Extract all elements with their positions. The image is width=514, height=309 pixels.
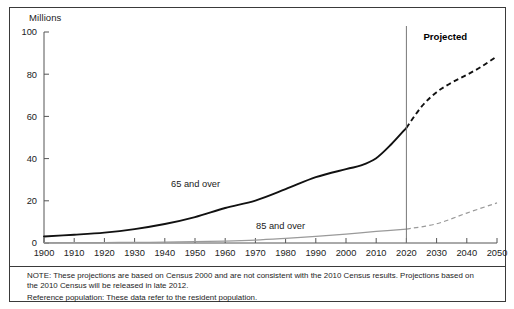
y-tick-label: 0 — [32, 238, 37, 248]
x-tick-label: 1900 — [34, 248, 55, 258]
y-tick-label: 80 — [27, 70, 37, 80]
x-tick-label: 1940 — [154, 248, 175, 258]
series-line-observed-85 — [44, 229, 406, 243]
note-line-2: the 2010 Census will be released in late… — [27, 281, 495, 291]
x-tick-label: 2030 — [426, 248, 447, 258]
series-line-projected-85 — [406, 203, 497, 229]
note-divider — [10, 266, 505, 267]
series-line-projected-65 — [406, 56, 497, 128]
note-line-1: NOTE: These projections are based on Cen… — [27, 271, 495, 281]
note-line-3: Reference population: These data refer t… — [27, 293, 495, 303]
series-label-85-and-over: 85 and over — [256, 221, 305, 231]
x-tick-label: 1970 — [245, 248, 266, 258]
y-tick-label: 60 — [27, 112, 37, 122]
x-tick-label: 1920 — [94, 248, 115, 258]
axes-group — [44, 32, 497, 243]
y-tick-label: 100 — [21, 27, 37, 37]
series-label-65-and-over: 65 and over — [171, 179, 220, 189]
x-tick-label: 2020 — [396, 248, 417, 258]
x-tick-label: 1910 — [64, 248, 85, 258]
x-tick-label: 2040 — [456, 248, 477, 258]
y-tick-label: 40 — [27, 154, 37, 164]
y-tick-label: 20 — [27, 196, 37, 206]
chart-figure: Millions 0204060801001900191019201930194… — [0, 0, 514, 309]
series-group — [44, 56, 497, 243]
chart-plot: 0204060801001900191019201930194019501960… — [0, 0, 514, 309]
note-block: NOTE: These projections are based on Cen… — [27, 271, 495, 304]
projected-label: Projected — [423, 31, 467, 42]
x-tick-label: 2000 — [336, 248, 357, 258]
x-tick-label: 1990 — [305, 248, 326, 258]
series-line-observed-65 — [44, 128, 406, 237]
x-tick-label: 2010 — [366, 248, 387, 258]
x-tick-label: 2050 — [487, 248, 508, 258]
x-tick-label: 1950 — [185, 248, 206, 258]
x-tick-label: 1980 — [275, 248, 296, 258]
x-tick-label: 1960 — [215, 248, 236, 258]
x-tick-label: 1930 — [124, 248, 145, 258]
